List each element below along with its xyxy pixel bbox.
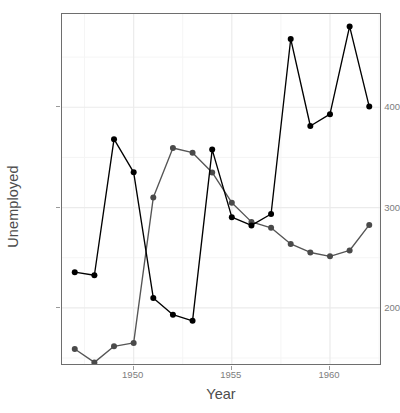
y-axis-tick-mark	[56, 207, 60, 208]
data-point	[72, 269, 78, 275]
data-point	[229, 214, 235, 220]
data-point	[111, 343, 117, 349]
data-point	[190, 318, 196, 324]
data-point	[347, 23, 353, 29]
data-point	[131, 340, 137, 346]
x-axis-tick-label: 1960	[318, 369, 339, 380]
data-point	[268, 211, 274, 217]
data-point	[72, 346, 78, 352]
data-point	[150, 295, 156, 301]
plot-panel	[61, 13, 381, 365]
x-axis-tick-label: 1950	[122, 369, 143, 380]
data-point	[170, 312, 176, 318]
data-point	[366, 222, 372, 228]
grid-minor	[62, 14, 381, 365]
series-armed-forces	[72, 145, 372, 365]
data-point	[229, 200, 235, 206]
data-point	[209, 147, 215, 153]
y-axis-title: Unemployed	[0, 0, 26, 413]
unemployed-vs-year-line-chart: Unemployed 200300400 195019551960 Year	[0, 0, 400, 413]
data-point	[91, 272, 97, 278]
data-point	[131, 169, 137, 175]
data-point	[347, 247, 353, 253]
x-axis-tick-mark	[329, 366, 330, 370]
data-point	[366, 104, 372, 110]
y-axis-tick-mark	[56, 106, 60, 107]
data-point	[150, 195, 156, 201]
data-point	[288, 241, 294, 247]
grid-major	[62, 14, 381, 365]
x-axis-tick-mark	[231, 366, 232, 370]
data-point	[327, 111, 333, 117]
data-point	[111, 136, 117, 142]
data-point	[170, 145, 176, 151]
data-point	[248, 222, 254, 228]
y-axis-tick-mark	[56, 307, 60, 308]
data-point	[268, 225, 274, 231]
series-line	[75, 148, 369, 362]
data-point	[190, 150, 196, 156]
x-axis-tick-label: 1955	[220, 369, 241, 380]
data-point	[288, 36, 294, 42]
plot-canvas	[62, 14, 381, 365]
x-axis-tick-mark	[133, 366, 134, 370]
data-point	[327, 253, 333, 259]
x-axis-title: Year	[61, 386, 381, 402]
series-unemployed	[72, 23, 372, 323]
data-point	[307, 123, 313, 129]
series-line	[75, 26, 369, 320]
data-point	[307, 249, 313, 255]
